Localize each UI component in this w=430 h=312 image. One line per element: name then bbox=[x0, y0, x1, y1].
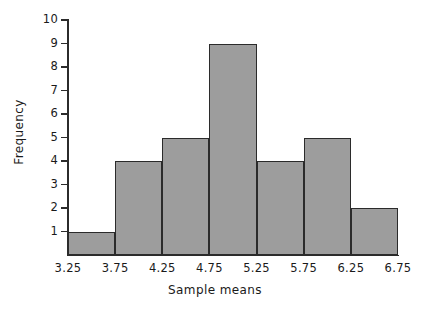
y-axis-tick bbox=[61, 43, 68, 44]
y-axis-tick-label: 2 bbox=[18, 202, 58, 214]
x-axis-tick-label: 6.75 bbox=[368, 262, 428, 274]
histogram-bar bbox=[257, 161, 304, 255]
y-axis-tick-label: 8 bbox=[18, 61, 58, 73]
histogram-figure: 12345678910 3.253.754.254.755.255.756.25… bbox=[0, 0, 430, 312]
histogram-bar bbox=[68, 232, 115, 256]
y-axis-tick-label: 9 bbox=[18, 38, 58, 50]
histogram-bar bbox=[304, 138, 351, 256]
x-axis-title: Sample means bbox=[0, 283, 430, 297]
y-axis-tick bbox=[61, 113, 68, 114]
y-axis-tick bbox=[61, 90, 68, 91]
y-axis-tick bbox=[61, 19, 68, 20]
y-axis-title: Frequency bbox=[12, 77, 26, 187]
y-axis-tick bbox=[61, 160, 68, 161]
plot-area bbox=[68, 20, 398, 255]
y-axis-tick bbox=[61, 137, 68, 138]
y-axis-tick-label: 10 bbox=[18, 14, 58, 26]
y-axis-tick bbox=[61, 66, 68, 67]
y-axis-tick bbox=[61, 231, 68, 232]
histogram-bar bbox=[351, 208, 398, 255]
histogram-bar bbox=[115, 161, 162, 255]
y-axis-tick-label: 1 bbox=[18, 226, 58, 238]
histogram-bar bbox=[162, 138, 209, 256]
y-axis-tick bbox=[61, 184, 68, 185]
histogram-bar bbox=[209, 44, 256, 256]
y-axis-tick bbox=[61, 207, 68, 208]
